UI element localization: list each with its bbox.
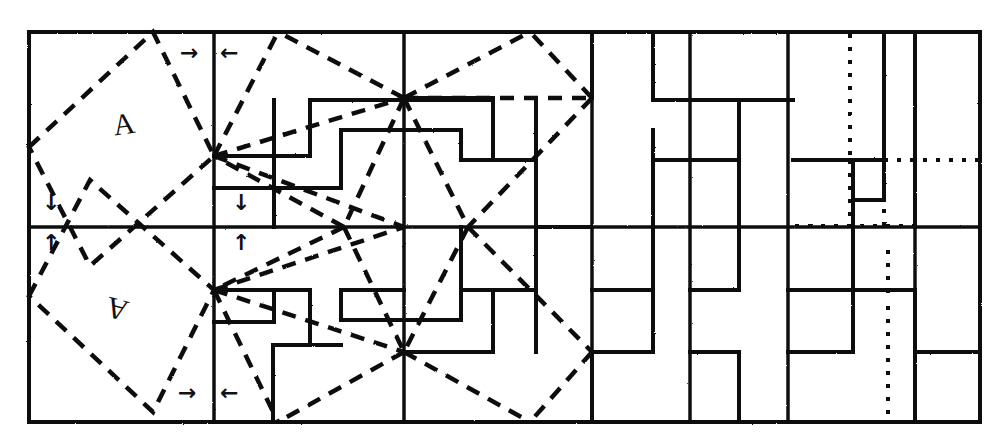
arrow-bottom-right-pointing-icon: → — [178, 382, 196, 404]
meander-block4-upper — [653, 32, 739, 227]
meander-block4-lower — [592, 227, 653, 422]
meander-lower-right — [788, 227, 980, 422]
meander-center-lower — [341, 227, 493, 352]
arrow-bottom-left-pointing-icon: ← — [220, 382, 238, 404]
figure-page: → ← ↓ ↑ ↓ ↑ → ← A A — [0, 0, 998, 448]
arrow-mid-center-up-icon: ↑ — [232, 232, 250, 254]
meander-upper-right-step — [850, 32, 915, 227]
tessellation-figure — [0, 0, 998, 448]
meander-block5-upper — [739, 100, 850, 227]
arrow-top-left-pointing-icon: ← — [220, 42, 238, 64]
arrow-mid-center-down-icon: ↓ — [232, 192, 250, 214]
motif-letter-upper: A — [111, 106, 137, 143]
meander-block5-lower — [690, 227, 739, 422]
meander-cell3-upper — [404, 98, 592, 227]
dashed-fan-node-c — [468, 32, 592, 227]
meander-center-lower-b — [493, 227, 536, 352]
arrow-top-right-pointing-icon: → — [180, 42, 198, 64]
dashed-fan-node-f — [530, 352, 592, 422]
arrow-mid-left-down-icon: ↓ — [42, 192, 60, 214]
arrow-mid-left-up-icon: ↑ — [42, 232, 60, 254]
